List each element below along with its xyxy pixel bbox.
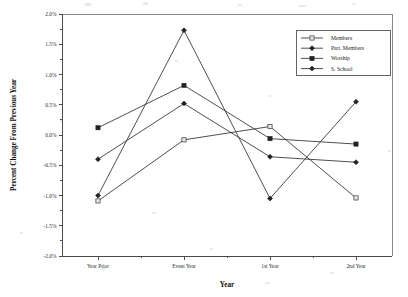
scan-speck xyxy=(352,3,356,5)
x-tick-label: Year Prior xyxy=(87,263,109,269)
scan-speck xyxy=(152,212,156,214)
legend-item-label: Worship xyxy=(331,55,350,61)
x-axis-title: Year xyxy=(220,281,235,289)
x-tick-label: 2nd Year xyxy=(346,263,365,269)
y-tick-label: 1.0% xyxy=(45,72,57,78)
data-point-marker xyxy=(96,199,100,203)
legend-sample-marker xyxy=(310,36,314,40)
data-point-marker xyxy=(354,196,358,200)
y-tick-label: -0.5% xyxy=(43,162,57,168)
y-tick-label: 0.5% xyxy=(45,102,57,108)
legend-item-label: Members xyxy=(331,35,352,41)
y-tick-label: -1.0% xyxy=(43,193,57,199)
scan-speck xyxy=(20,232,23,234)
chart-container: 2.0%1.5%1.0%0.5%0.0%-0.5%-1.0%-1.5%-2.0%… xyxy=(0,0,408,297)
x-tick-label: Event Year xyxy=(172,263,196,269)
data-point-marker xyxy=(268,137,272,141)
scan-speck xyxy=(210,248,213,250)
y-tick-label: 2.0% xyxy=(45,11,57,17)
scan-speck xyxy=(268,95,271,97)
scan-speck xyxy=(143,2,148,5)
y-axis-title: Percent Change From Previous Year xyxy=(10,78,18,191)
scan-speck xyxy=(238,4,242,6)
y-tick-label: 0.0% xyxy=(45,132,57,138)
data-point-marker xyxy=(268,124,272,128)
legend-item-label: Part. Members xyxy=(331,45,364,51)
data-point-marker xyxy=(182,138,186,142)
data-point-marker xyxy=(182,83,186,87)
legend-sample-marker xyxy=(310,56,314,60)
legend-item-label: S. School xyxy=(331,66,353,72)
scan-speck xyxy=(85,3,91,6)
chart-legend: MembersPart. MembersWorshipS. School xyxy=(296,30,390,75)
scan-speck xyxy=(265,282,270,284)
scan-speck xyxy=(330,272,334,274)
y-tick-label: -1.5% xyxy=(43,223,57,229)
data-point-marker xyxy=(96,126,100,130)
data-point-marker xyxy=(354,142,358,146)
scan-speck xyxy=(388,150,391,152)
percent-change-line-chart: 2.0%1.5%1.0%0.5%0.0%-0.5%-1.0%-1.5%-2.0%… xyxy=(0,0,408,297)
x-tick-label: 1st Year xyxy=(261,263,279,269)
y-tick-label: 1.5% xyxy=(45,41,57,47)
scan-speck xyxy=(299,5,306,7)
scan-speck xyxy=(175,60,178,62)
y-tick-label: -2.0% xyxy=(43,253,57,259)
